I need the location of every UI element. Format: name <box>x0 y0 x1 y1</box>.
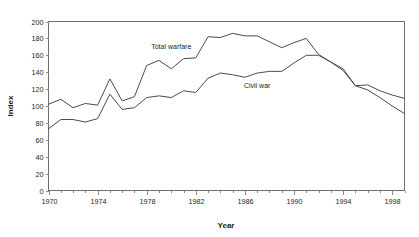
y-tick-label: 120 <box>32 85 44 94</box>
x-tick-label: 1994 <box>336 197 352 206</box>
y-tick-label: 100 <box>32 102 44 111</box>
y-tick-label: 20 <box>36 170 44 179</box>
x-tick-label: 1982 <box>189 197 205 206</box>
warfare-index-line-chart: 020406080100120140160180200 197019741978… <box>0 0 419 237</box>
y-tick-label: 160 <box>32 51 44 60</box>
y-tick-label: 80 <box>36 119 44 128</box>
y-axis-title: Index <box>6 95 15 116</box>
y-tick-label: 0 <box>40 187 44 196</box>
y-tick-label: 200 <box>32 18 44 27</box>
chart-background <box>0 0 419 237</box>
y-tick-label: 40 <box>36 153 44 162</box>
series-label-2: Civil war <box>244 82 271 89</box>
x-tick-label: 1986 <box>238 197 254 206</box>
y-tick-label: 180 <box>32 34 44 43</box>
x-tick-label: 1974 <box>91 197 107 206</box>
y-tick-label: 140 <box>32 68 44 77</box>
x-tick-label: 1978 <box>140 197 156 206</box>
y-tick-label: 60 <box>36 136 44 145</box>
series-label-1: Total warfare <box>151 43 191 50</box>
x-tick-label: 1970 <box>42 197 58 206</box>
x-tick-label: 1998 <box>385 197 401 206</box>
chart-container: 020406080100120140160180200 197019741978… <box>0 0 419 237</box>
x-tick-label: 1990 <box>287 197 303 206</box>
x-axis-title: Year <box>218 221 235 230</box>
